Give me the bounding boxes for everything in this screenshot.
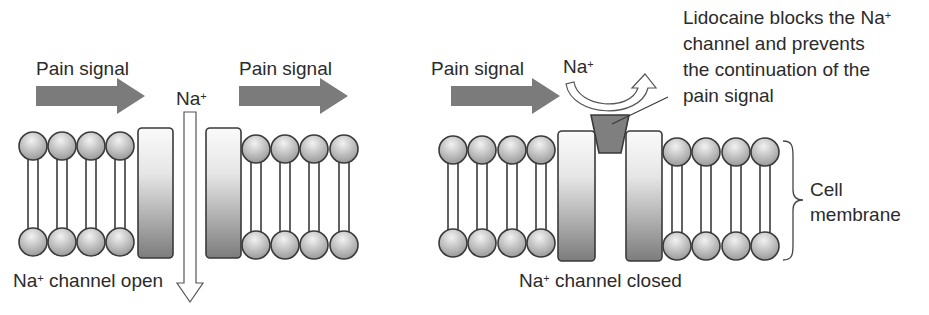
annotation-line-3: the continuation of the: [683, 58, 870, 81]
phospholipid-group-left-b: [242, 135, 358, 259]
sodium-ion-label-left: Na+: [176, 87, 207, 110]
membrane-brace-icon: [783, 141, 803, 260]
channel-open-caption: Na+ channel open: [13, 269, 163, 292]
lidocaine-blocker-icon: [591, 115, 629, 153]
phospholipid-group-left-a: [19, 132, 134, 256]
caption-ion: Na: [519, 270, 543, 291]
membrane-label-line-2: membrane: [810, 203, 901, 226]
caption-charge: +: [543, 272, 549, 284]
annotation-line-2: channel and prevents: [683, 32, 865, 55]
annotation-charge: +: [885, 9, 891, 21]
pain-signal-label-left-2: Pain signal: [239, 57, 332, 80]
deflected-sodium-arrow-icon: [566, 74, 656, 111]
sodium-flow-arrow-icon: [177, 112, 203, 302]
channel-protein-left-closed: [558, 131, 595, 261]
pain-signal-arrow-left-1: [36, 78, 145, 114]
ion-symbol: Na: [176, 88, 200, 109]
ion-charge: +: [587, 58, 593, 70]
channel-protein-right-open: [206, 128, 241, 258]
sodium-ion-label-right: Na+: [563, 55, 594, 78]
annotation-line-1: Lidocaine blocks the Na+: [683, 6, 891, 29]
channel-closed-caption: Na+ channel closed: [519, 269, 682, 292]
ion-symbol: Na: [563, 56, 587, 77]
caption-text: channel closed: [550, 270, 682, 291]
annotation-line-4: pain signal: [683, 84, 774, 107]
pain-signal-label-right: Pain signal: [431, 57, 524, 80]
channel-protein-left-open: [138, 128, 173, 258]
ion-charge: +: [200, 90, 206, 102]
channel-protein-right-closed: [626, 131, 662, 261]
pain-signal-arrow-left-2: [239, 78, 348, 114]
caption-ion: Na: [13, 270, 37, 291]
caption-charge: +: [37, 272, 43, 284]
phospholipid-group-right-a: [439, 136, 555, 257]
pain-signal-arrow-right: [451, 78, 560, 114]
caption-text: channel open: [44, 270, 163, 291]
pain-signal-label-left-1: Pain signal: [36, 57, 129, 80]
phospholipid-group-right-b: [663, 138, 779, 260]
membrane-label-line-1: Cell: [810, 178, 843, 201]
annotation-text: Lidocaine blocks the Na: [683, 7, 885, 28]
